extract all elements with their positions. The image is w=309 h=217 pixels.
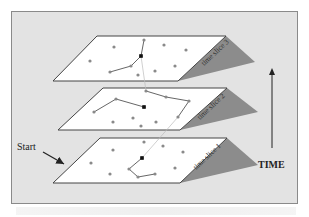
data-point bbox=[154, 120, 157, 123]
data-point bbox=[153, 172, 156, 175]
start-label: Start bbox=[17, 141, 36, 152]
data-point bbox=[112, 45, 115, 48]
data-point bbox=[127, 167, 130, 170]
data-point bbox=[131, 116, 134, 119]
data-point bbox=[108, 172, 111, 175]
data-point bbox=[173, 166, 176, 169]
start-arrow-icon bbox=[43, 152, 64, 164]
data-point bbox=[162, 43, 165, 46]
figure-caption bbox=[16, 207, 296, 215]
data-point bbox=[111, 120, 114, 123]
data-point bbox=[139, 124, 142, 127]
data-point bbox=[181, 150, 184, 153]
data-point bbox=[173, 64, 176, 67]
data-point bbox=[164, 95, 167, 98]
current-point-marker bbox=[140, 156, 144, 160]
time-label: TIME bbox=[258, 159, 285, 170]
time-arrowhead-icon bbox=[269, 68, 275, 75]
data-point bbox=[129, 64, 132, 67]
data-point bbox=[176, 115, 179, 118]
data-point bbox=[136, 73, 139, 76]
time-slice-diagram: time slice 1time slice 2time slice 3 Sta… bbox=[0, 0, 309, 217]
data-point bbox=[92, 110, 95, 113]
data-point bbox=[187, 99, 190, 102]
data-point bbox=[108, 70, 111, 73]
data-point bbox=[142, 38, 145, 41]
data-point bbox=[88, 59, 91, 62]
data-point bbox=[153, 69, 156, 72]
data-point bbox=[114, 97, 117, 100]
data-point bbox=[161, 144, 164, 147]
current-point-marker bbox=[139, 54, 143, 58]
data-point bbox=[144, 89, 147, 92]
data-point bbox=[184, 48, 187, 51]
data-point bbox=[89, 161, 92, 164]
current-point-marker bbox=[142, 105, 146, 109]
data-point bbox=[136, 175, 139, 178]
data-point bbox=[111, 148, 114, 151]
data-point bbox=[142, 140, 145, 143]
